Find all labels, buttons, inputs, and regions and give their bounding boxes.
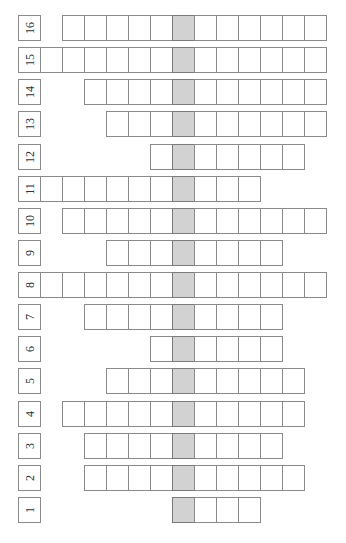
letter-cell[interactable] [150,304,173,330]
letter-cell[interactable] [238,401,261,427]
letter-cell[interactable] [40,272,63,298]
letter-cell[interactable] [128,240,151,266]
letter-cell[interactable] [194,401,217,427]
key-letter-cell[interactable] [172,208,195,234]
letter-cell[interactable] [150,336,173,362]
letter-cell[interactable] [194,111,217,137]
letter-cell[interactable] [260,433,283,459]
letter-cell[interactable] [106,79,129,105]
letter-cell[interactable] [40,47,63,73]
letter-cell[interactable] [150,433,173,459]
letter-cell[interactable] [216,272,239,298]
letter-cell[interactable] [304,47,327,73]
letter-cell[interactable] [62,208,85,234]
letter-cell[interactable] [216,304,239,330]
letter-cell[interactable] [194,208,217,234]
letter-cell[interactable] [106,368,129,394]
letter-cell[interactable] [216,79,239,105]
letter-cell[interactable] [282,272,305,298]
letter-cell[interactable] [282,15,305,41]
letter-cell[interactable] [84,433,107,459]
letter-cell[interactable] [150,144,173,170]
letter-cell[interactable] [194,368,217,394]
letter-cell[interactable] [106,15,129,41]
letter-cell[interactable] [238,240,261,266]
letter-cell[interactable] [260,272,283,298]
letter-cell[interactable] [260,111,283,137]
letter-cell[interactable] [304,15,327,41]
letter-cell[interactable] [260,304,283,330]
letter-cell[interactable] [216,240,239,266]
letter-cell[interactable] [238,144,261,170]
letter-cell[interactable] [238,111,261,137]
letter-cell[interactable] [194,465,217,491]
letter-cell[interactable] [194,176,217,202]
letter-cell[interactable] [62,272,85,298]
letter-cell[interactable] [150,465,173,491]
letter-cell[interactable] [106,272,129,298]
letter-cell[interactable] [150,176,173,202]
key-letter-cell[interactable] [172,176,195,202]
key-letter-cell[interactable] [172,497,195,523]
letter-cell[interactable] [150,240,173,266]
letter-cell[interactable] [84,272,107,298]
letter-cell[interactable] [216,336,239,362]
letter-cell[interactable] [304,208,327,234]
key-letter-cell[interactable] [172,336,195,362]
letter-cell[interactable] [238,47,261,73]
letter-cell[interactable] [128,433,151,459]
key-letter-cell[interactable] [172,79,195,105]
letter-cell[interactable] [150,47,173,73]
letter-cell[interactable] [106,401,129,427]
key-letter-cell[interactable] [172,144,195,170]
letter-cell[interactable] [150,272,173,298]
letter-cell[interactable] [84,79,107,105]
letter-cell[interactable] [194,433,217,459]
letter-cell[interactable] [238,272,261,298]
letter-cell[interactable] [194,79,217,105]
letter-cell[interactable] [128,176,151,202]
letter-cell[interactable] [106,433,129,459]
letter-cell[interactable] [84,304,107,330]
letter-cell[interactable] [238,304,261,330]
letter-cell[interactable] [106,304,129,330]
letter-cell[interactable] [106,176,129,202]
letter-cell[interactable] [282,208,305,234]
letter-cell[interactable] [84,15,107,41]
letter-cell[interactable] [260,15,283,41]
key-letter-cell[interactable] [172,433,195,459]
letter-cell[interactable] [194,47,217,73]
letter-cell[interactable] [282,111,305,137]
letter-cell[interactable] [128,368,151,394]
letter-cell[interactable] [304,111,327,137]
letter-cell[interactable] [282,401,305,427]
letter-cell[interactable] [238,465,261,491]
letter-cell[interactable] [260,401,283,427]
letter-cell[interactable] [62,176,85,202]
letter-cell[interactable] [150,15,173,41]
letter-cell[interactable] [260,144,283,170]
letter-cell[interactable] [84,208,107,234]
letter-cell[interactable] [128,79,151,105]
letter-cell[interactable] [238,15,261,41]
key-letter-cell[interactable] [172,15,195,41]
key-letter-cell[interactable] [172,47,195,73]
letter-cell[interactable] [194,240,217,266]
letter-cell[interactable] [62,15,85,41]
letter-cell[interactable] [260,240,283,266]
letter-cell[interactable] [194,15,217,41]
letter-cell[interactable] [260,368,283,394]
key-letter-cell[interactable] [172,465,195,491]
letter-cell[interactable] [150,401,173,427]
letter-cell[interactable] [282,47,305,73]
letter-cell[interactable] [304,272,327,298]
letter-cell[interactable] [128,47,151,73]
letter-cell[interactable] [216,401,239,427]
letter-cell[interactable] [238,79,261,105]
letter-cell[interactable] [216,433,239,459]
letter-cell[interactable] [216,144,239,170]
letter-cell[interactable] [106,47,129,73]
letter-cell[interactable] [216,465,239,491]
letter-cell[interactable] [128,465,151,491]
letter-cell[interactable] [238,368,261,394]
